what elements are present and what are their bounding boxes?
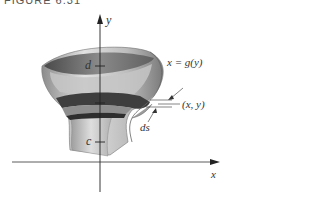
x-axis-arrow-icon <box>210 159 220 165</box>
c-label: c <box>86 135 91 147</box>
y-axis-label: y <box>106 14 111 26</box>
d-label: d <box>85 59 91 71</box>
x-axis-label: x <box>211 169 216 180</box>
point-label: (x, y) <box>182 99 205 110</box>
curve-label: x = g(y) <box>167 57 203 68</box>
arc-length-label: ds <box>140 122 150 133</box>
y-axis-arrow-icon <box>97 14 103 24</box>
